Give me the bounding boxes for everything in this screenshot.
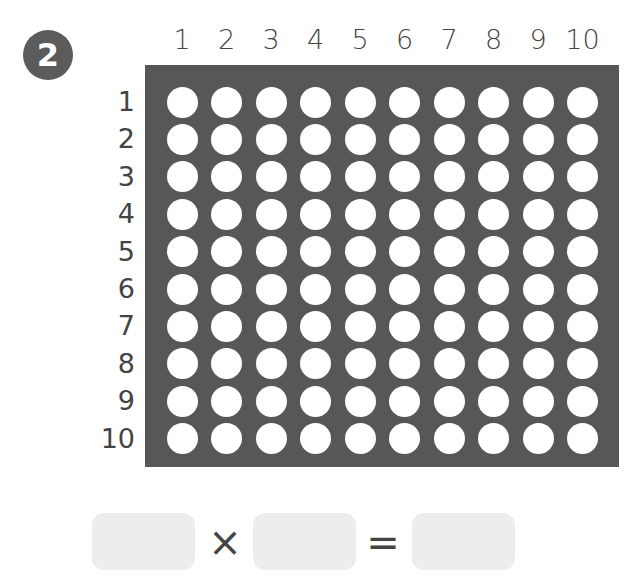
column-label: 9 bbox=[518, 24, 558, 55]
array-dot bbox=[300, 311, 331, 342]
array-dot bbox=[211, 423, 242, 454]
array-dot bbox=[256, 199, 287, 230]
array-dot bbox=[478, 274, 509, 305]
array-dot bbox=[389, 311, 420, 342]
array-dot bbox=[167, 161, 198, 192]
array-dot bbox=[478, 311, 509, 342]
dot-array-grid bbox=[145, 65, 619, 467]
array-dot bbox=[211, 386, 242, 417]
times-sign: × bbox=[205, 518, 245, 566]
column-label: 6 bbox=[385, 24, 425, 55]
array-dot bbox=[523, 124, 554, 155]
array-dot bbox=[211, 124, 242, 155]
array-dot bbox=[345, 199, 376, 230]
array-dot bbox=[478, 124, 509, 155]
array-dot bbox=[478, 87, 509, 118]
array-dot bbox=[523, 161, 554, 192]
row-label: 1 bbox=[95, 85, 135, 119]
array-dot bbox=[256, 124, 287, 155]
array-dot bbox=[256, 87, 287, 118]
array-dot bbox=[523, 348, 554, 379]
array-dot bbox=[300, 348, 331, 379]
array-dot bbox=[345, 423, 376, 454]
array-dot bbox=[567, 87, 598, 118]
array-dot bbox=[211, 199, 242, 230]
array-dot bbox=[434, 423, 465, 454]
array-dot bbox=[345, 311, 376, 342]
row-label: 10 bbox=[95, 422, 135, 456]
array-dot bbox=[523, 236, 554, 267]
array-dot bbox=[434, 236, 465, 267]
row-label: 6 bbox=[95, 272, 135, 306]
product-answer-box[interactable] bbox=[412, 513, 515, 570]
array-dot bbox=[345, 124, 376, 155]
array-dot bbox=[434, 274, 465, 305]
array-dot bbox=[345, 348, 376, 379]
array-dot bbox=[434, 386, 465, 417]
factor1-answer-box[interactable] bbox=[92, 513, 195, 570]
array-dot bbox=[567, 348, 598, 379]
row-label: 7 bbox=[95, 309, 135, 343]
array-dot bbox=[523, 274, 554, 305]
array-dot bbox=[567, 161, 598, 192]
array-dot bbox=[478, 161, 509, 192]
array-dot bbox=[256, 236, 287, 267]
array-dot bbox=[523, 199, 554, 230]
array-dot bbox=[478, 236, 509, 267]
equals-sign: = bbox=[363, 518, 403, 566]
row-label: 4 bbox=[95, 197, 135, 231]
array-dot bbox=[256, 386, 287, 417]
column-label: 10 bbox=[563, 24, 603, 55]
array-dot bbox=[523, 423, 554, 454]
array-dot bbox=[345, 274, 376, 305]
array-dot bbox=[567, 236, 598, 267]
array-dot bbox=[434, 311, 465, 342]
array-dot bbox=[389, 161, 420, 192]
array-dot bbox=[256, 423, 287, 454]
array-dot bbox=[211, 161, 242, 192]
array-dot bbox=[434, 87, 465, 118]
array-dot bbox=[434, 348, 465, 379]
array-dot bbox=[300, 199, 331, 230]
column-label: 5 bbox=[340, 24, 380, 55]
array-dot bbox=[345, 87, 376, 118]
array-dot bbox=[256, 348, 287, 379]
array-dot bbox=[567, 311, 598, 342]
array-dot bbox=[211, 348, 242, 379]
array-dot bbox=[567, 423, 598, 454]
array-dot bbox=[345, 236, 376, 267]
array-dot bbox=[300, 423, 331, 454]
array-dot bbox=[300, 87, 331, 118]
column-label: 8 bbox=[474, 24, 514, 55]
array-dot bbox=[167, 274, 198, 305]
column-label: 1 bbox=[162, 24, 202, 55]
array-dot bbox=[300, 236, 331, 267]
array-dot bbox=[256, 311, 287, 342]
problem-number-badge: 2 bbox=[23, 30, 73, 80]
array-dot bbox=[567, 124, 598, 155]
array-dot bbox=[167, 199, 198, 230]
array-dot bbox=[567, 386, 598, 417]
array-dot bbox=[567, 199, 598, 230]
array-dot bbox=[167, 311, 198, 342]
array-dot bbox=[434, 161, 465, 192]
array-dot bbox=[345, 386, 376, 417]
factor2-answer-box[interactable] bbox=[253, 513, 356, 570]
array-dot bbox=[300, 161, 331, 192]
array-dot bbox=[167, 87, 198, 118]
array-dot bbox=[167, 386, 198, 417]
array-dot bbox=[434, 124, 465, 155]
array-dot bbox=[167, 423, 198, 454]
array-dot bbox=[567, 274, 598, 305]
column-label: 3 bbox=[251, 24, 291, 55]
array-dot bbox=[345, 161, 376, 192]
array-dot bbox=[300, 274, 331, 305]
array-dot bbox=[389, 124, 420, 155]
array-dot bbox=[478, 386, 509, 417]
array-dot bbox=[523, 311, 554, 342]
array-dot bbox=[389, 199, 420, 230]
array-dot bbox=[167, 124, 198, 155]
column-label: 7 bbox=[429, 24, 469, 55]
array-dot bbox=[389, 386, 420, 417]
row-label: 3 bbox=[95, 160, 135, 194]
